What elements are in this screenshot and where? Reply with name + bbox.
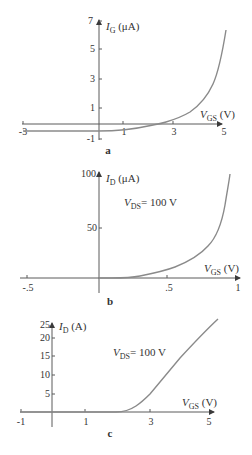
x-tick-b-05: .5 — [165, 282, 173, 293]
chart-b: 100 50 -.5 .5 1 ID (μA) VDS= 100 V VGS (… — [20, 168, 241, 307]
y-tick-a-3: 3 — [90, 73, 95, 84]
x-tick-c-5: 5 — [207, 416, 212, 427]
panel-label-b: b — [107, 295, 113, 307]
x-label-a: VGS (V) — [200, 108, 235, 123]
annotation-vds-b: VDS= 100 V — [124, 196, 177, 211]
y-tick-c-25: 25 — [40, 319, 50, 330]
y-tick-a-1: 1 — [90, 102, 95, 113]
figure: 7 5 3 1 -1 -3 1 3 5 IG (μA) VGS (V) a 10… — [0, 0, 252, 455]
annotation-vds-c: VDS= 100 V — [113, 346, 166, 361]
x-label-b: VGS (V) — [204, 262, 239, 277]
x-tick-a-3: 3 — [172, 126, 177, 137]
y-tick-a-neg1: -1 — [87, 133, 95, 144]
x-tick-c-3: 3 — [149, 416, 154, 427]
y-tick-a-5: 5 — [90, 43, 95, 54]
x-tick-c-1: 1 — [84, 416, 89, 427]
x-tick-c-neg1: -1 — [17, 416, 25, 427]
curve-a — [23, 30, 226, 131]
y-tick-b-100: 100 — [81, 168, 96, 179]
y-tick-c-5: 5 — [45, 388, 50, 399]
panel-label-c: c — [108, 427, 113, 439]
x-tick-a-1: 1 — [122, 126, 127, 137]
y-tick-c-15: 15 — [40, 350, 50, 361]
y-label-c: ID (A) — [58, 320, 87, 335]
panel-label-a: a — [105, 144, 111, 156]
y-tick-c-10: 10 — [40, 369, 50, 380]
x-label-c: VGS (V) — [182, 396, 217, 411]
y-tick-a-7: 7 — [88, 15, 93, 26]
y-label-a: IG (μA) — [105, 20, 140, 35]
y-tick-b-50: 50 — [87, 222, 97, 233]
x-tick-b-neg05: -.5 — [23, 282, 34, 293]
chart-c: 25 20 15 10 5 -1 1 3 5 ID (A) VDS= 100 V… — [17, 319, 218, 439]
x-tick-a-5: 5 — [222, 126, 227, 137]
y-tick-c-20: 20 — [40, 332, 50, 343]
y-label-b: ID (μA) — [105, 172, 140, 187]
x-tick-b-1: 1 — [236, 282, 241, 293]
chart-a: 7 5 3 1 -1 -3 1 3 5 IG (μA) VGS (V) a — [19, 15, 235, 156]
